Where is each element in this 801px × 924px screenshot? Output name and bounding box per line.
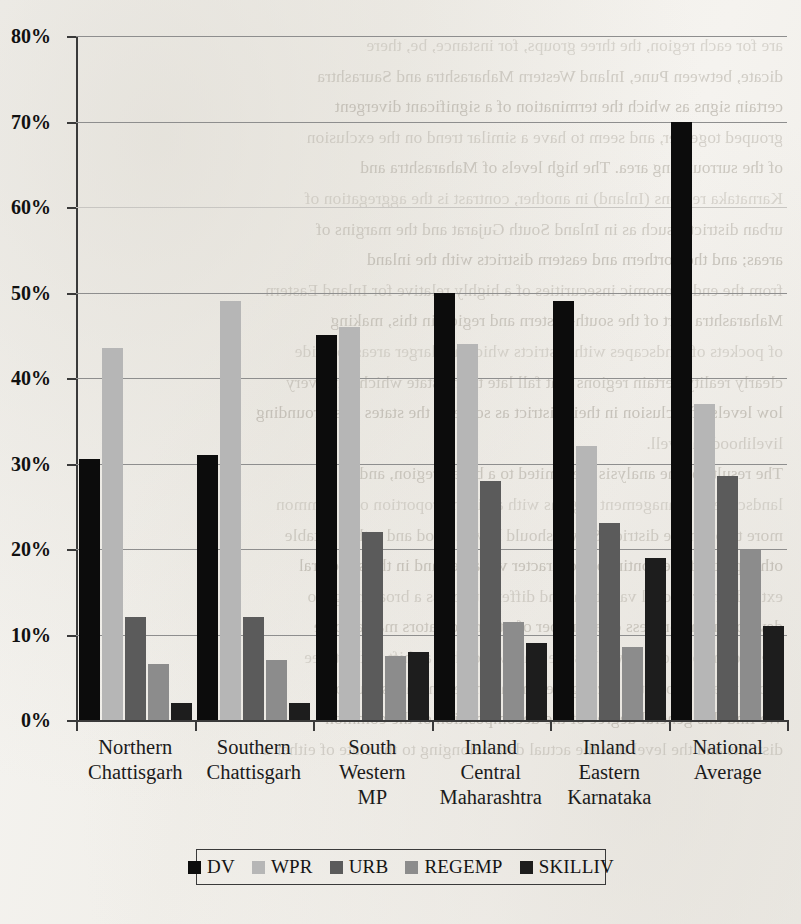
x-category-label: SouthernChattisgarh — [195, 735, 314, 785]
bar-urb-2 — [243, 617, 264, 720]
legend-item-urb[interactable]: URB — [330, 856, 389, 878]
x-category-label-line: Inland — [550, 735, 669, 760]
x-tick-mark — [432, 720, 434, 731]
bar-dv-1 — [79, 459, 100, 720]
x-category-label: InlandCentralMaharashtra — [432, 735, 551, 810]
legend-item-wpr[interactable]: WPR — [252, 856, 313, 878]
legend-label: DV — [207, 856, 235, 878]
bar-chart: 0%10%20%30%40%50%60%70%80% NorthernChatt… — [0, 0, 801, 924]
scanned-page: are for each region, the three groups, f… — [0, 0, 801, 924]
bar-urb-5 — [599, 523, 620, 720]
bar-skilliv-2 — [289, 703, 310, 720]
x-category-label-line: Chattisgarh — [195, 760, 314, 785]
x-category-label-line: Chattisgarh — [76, 760, 195, 785]
legend-swatch-icon — [188, 861, 201, 874]
x-category-label-line: Northern — [76, 735, 195, 760]
y-tick-mark — [67, 549, 76, 551]
bar-urb-3 — [362, 532, 383, 720]
y-tick-label: 70% — [0, 111, 51, 134]
y-tick-label: 40% — [0, 367, 51, 390]
bar-regemp-3 — [385, 656, 406, 720]
bar-skilliv-5 — [645, 558, 666, 720]
x-category-label-line: Karnataka — [550, 785, 669, 810]
legend-label: REGEMP — [424, 856, 502, 878]
y-tick-label: 20% — [0, 538, 51, 561]
bar-wpr-3 — [339, 327, 360, 720]
y-tick-mark — [67, 36, 76, 38]
bar-skilliv-4 — [526, 643, 547, 720]
x-category-label-line: Maharashtra — [432, 785, 551, 810]
x-category-label-line: Inland — [432, 735, 551, 760]
bar-skilliv-3 — [408, 652, 429, 720]
y-tick-label: 0% — [0, 709, 51, 732]
y-tick-mark — [67, 720, 76, 722]
y-tick-mark — [67, 464, 76, 466]
plot-area: 0%10%20%30%40%50%60%70%80% — [76, 36, 787, 720]
x-category-label-line: Eastern — [550, 760, 669, 785]
legend-swatch-icon — [252, 861, 265, 874]
bar-regemp-6 — [740, 549, 761, 720]
y-tick-label: 80% — [0, 25, 51, 48]
bar-wpr-4 — [457, 344, 478, 720]
x-tick-mark — [195, 720, 197, 731]
legend-label: SKILLIV — [539, 856, 614, 878]
x-category-label-line: South — [313, 735, 432, 760]
legend-label: WPR — [271, 856, 313, 878]
y-tick-label: 50% — [0, 282, 51, 305]
bar-regemp-5 — [622, 647, 643, 720]
y-tick-mark — [67, 207, 76, 209]
x-category-label: SouthWesternMP — [313, 735, 432, 810]
x-category-label-line: Average — [669, 760, 788, 785]
x-category-label-line: Southern — [195, 735, 314, 760]
legend-item-regemp[interactable]: REGEMP — [405, 856, 502, 878]
x-category-label: InlandEasternKarnataka — [550, 735, 669, 810]
y-tick-label: 60% — [0, 196, 51, 219]
x-tick-mark — [550, 720, 552, 731]
x-tick-mark — [313, 720, 315, 731]
bar-wpr-6 — [694, 404, 715, 720]
bar-regemp-1 — [148, 664, 169, 720]
legend-swatch-icon — [330, 861, 343, 874]
bar-dv-5 — [553, 301, 574, 720]
x-category-label-line: Western — [313, 760, 432, 785]
y-tick-mark — [67, 122, 76, 124]
bar-skilliv-6 — [763, 626, 784, 720]
bar-dv-6 — [671, 122, 692, 721]
x-axis — [70, 720, 787, 722]
x-category-label-line: National — [669, 735, 788, 760]
bar-wpr-2 — [220, 301, 241, 720]
legend-swatch-icon — [405, 861, 418, 874]
bar-wpr-1 — [102, 348, 123, 720]
bar-urb-1 — [125, 617, 146, 720]
x-category-label-line: Central — [432, 760, 551, 785]
bar-skilliv-1 — [171, 703, 192, 720]
bar-dv-3 — [316, 335, 337, 720]
chart-legend: DVWPRURBREGEMPSKILLIV — [196, 849, 606, 885]
legend-item-skilliv[interactable]: SKILLIV — [520, 856, 614, 878]
y-tick-mark — [67, 378, 76, 380]
x-tick-mark — [669, 720, 671, 731]
bar-dv-4 — [434, 293, 455, 721]
bar-urb-4 — [480, 481, 501, 720]
x-category-label-line: MP — [313, 785, 432, 810]
legend-swatch-icon — [520, 861, 533, 874]
bar-wpr-5 — [576, 446, 597, 720]
y-tick-label: 10% — [0, 624, 51, 647]
x-tick-mark — [76, 720, 78, 731]
gridline — [76, 36, 787, 37]
legend-label: URB — [349, 856, 389, 878]
bar-urb-6 — [717, 476, 738, 720]
bar-dv-2 — [197, 455, 218, 720]
y-tick-mark — [67, 293, 76, 295]
bar-regemp-2 — [266, 660, 287, 720]
x-category-label: NorthernChattisgarh — [76, 735, 195, 785]
legend-item-dv[interactable]: DV — [188, 856, 235, 878]
bar-regemp-4 — [503, 622, 524, 720]
x-tick-mark — [787, 720, 789, 731]
y-tick-mark — [67, 635, 76, 637]
x-category-label: NationalAverage — [669, 735, 788, 785]
y-tick-label: 30% — [0, 453, 51, 476]
